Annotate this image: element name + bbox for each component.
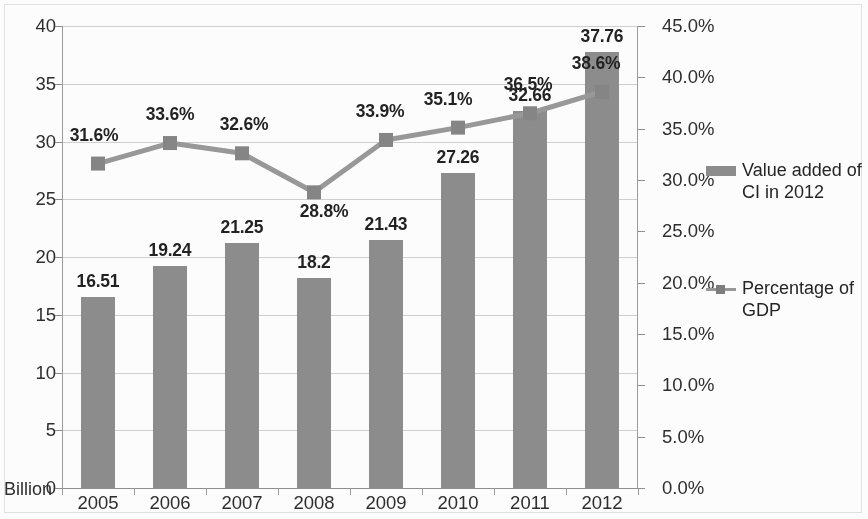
y-axis-left-tick-label: 25 bbox=[12, 188, 56, 210]
gridline bbox=[63, 142, 637, 143]
bar bbox=[369, 240, 403, 488]
legend-item-value-added: Value added of CI in 2012 bbox=[706, 160, 866, 204]
gridline bbox=[63, 430, 637, 431]
y-axis-right-tick-label: 45.0% bbox=[662, 15, 714, 37]
x-axis-tick-label: 2006 bbox=[149, 492, 190, 514]
x-axis-tick bbox=[494, 488, 495, 495]
y-axis-right-tick bbox=[638, 180, 645, 181]
bar bbox=[225, 243, 259, 488]
legend-label-line1: Percentage of bbox=[742, 278, 854, 298]
legend-item-percentage-gdp: Percentage of GDP bbox=[706, 278, 866, 322]
bar bbox=[441, 173, 475, 488]
y-axis-left-tick bbox=[55, 373, 62, 374]
line-value-label: 36.5% bbox=[504, 74, 553, 95]
line-value-label: 32.6% bbox=[220, 114, 269, 135]
gridline bbox=[63, 199, 637, 200]
y-axis-left-tick bbox=[55, 257, 62, 258]
legend-label-line1: Value added of bbox=[742, 160, 862, 180]
gridline bbox=[63, 315, 637, 316]
x-axis-tick-label: 2011 bbox=[510, 492, 550, 514]
x-axis-tick bbox=[422, 488, 423, 495]
y-axis-left-tick bbox=[55, 84, 62, 85]
y-axis-right-tick-label: 35.0% bbox=[662, 118, 714, 140]
y-axis-right-tick bbox=[638, 77, 645, 78]
y-axis-left-tick-label: 20 bbox=[12, 246, 56, 268]
legend-line-marker-icon bbox=[716, 285, 725, 294]
line-value-label: 31.6% bbox=[70, 125, 119, 146]
bar bbox=[81, 297, 115, 488]
x-axis-tick-label: 2012 bbox=[581, 492, 622, 514]
gridline bbox=[63, 26, 637, 27]
bar-value-label: 37.76 bbox=[581, 26, 624, 47]
y-axis-left-tick-label: 40 bbox=[12, 15, 56, 37]
bar-value-label: 21.43 bbox=[365, 214, 408, 235]
line-value-label: 33.6% bbox=[146, 104, 195, 125]
y-axis-right-tick bbox=[638, 385, 645, 386]
y-axis-right-tick bbox=[638, 26, 645, 27]
y-axis-right-tick-label: 40.0% bbox=[662, 66, 714, 88]
bar-value-label: 18.2 bbox=[297, 252, 330, 273]
x-axis-tick bbox=[566, 488, 567, 495]
legend-line-swatch-icon bbox=[706, 283, 736, 295]
x-axis-tick bbox=[134, 488, 135, 495]
x-axis-tick-label: 2010 bbox=[437, 492, 478, 514]
bar bbox=[585, 52, 619, 488]
x-axis-tick-label: 2005 bbox=[77, 492, 118, 514]
x-axis-tick-label: 2009 bbox=[365, 492, 406, 514]
x-axis-tick bbox=[278, 488, 279, 495]
line-value-label: 35.1% bbox=[424, 89, 473, 110]
y-axis-left-tick-label: 35 bbox=[12, 73, 56, 95]
y-axis-right-tick-label: 5.0% bbox=[662, 426, 704, 448]
y-axis-right-tick bbox=[638, 231, 645, 232]
y-axis-left-tick bbox=[55, 315, 62, 316]
bar bbox=[513, 111, 547, 488]
x-axis-tick-label: 2007 bbox=[221, 492, 262, 514]
y-axis-right-tick-label: 10.0% bbox=[662, 374, 714, 396]
gridline bbox=[63, 373, 637, 374]
legend-label-line2: GDP bbox=[742, 300, 781, 320]
y-axis-left-tick-label: 15 bbox=[12, 304, 56, 326]
bar-value-label: 21.25 bbox=[221, 217, 264, 238]
bar-value-label: 16.51 bbox=[77, 271, 120, 292]
y-axis-right-tick-label: 15.0% bbox=[662, 323, 714, 345]
legend-label-percentage-gdp: Percentage of GDP bbox=[742, 278, 854, 322]
x-axis-tick bbox=[206, 488, 207, 495]
y-axis-left-tick-label: 30 bbox=[12, 131, 56, 153]
y-axis-right-tick bbox=[638, 488, 645, 489]
legend-label-value-added: Value added of CI in 2012 bbox=[742, 160, 862, 204]
y-axis-left: 0510152025303540 bbox=[0, 0, 56, 519]
legend-label-line2: CI in 2012 bbox=[742, 182, 824, 202]
x-axis-tick bbox=[638, 488, 639, 495]
y-axis-left-tick bbox=[55, 26, 62, 27]
bar-value-label: 19.24 bbox=[149, 240, 192, 261]
y-axis-unit-label: Billion bbox=[4, 479, 52, 500]
y-axis-left-tick bbox=[55, 488, 62, 489]
y-axis-right: 0.0%5.0%10.0%15.0%20.0%25.0%30.0%35.0%40… bbox=[638, 0, 758, 519]
line-value-label: 28.8% bbox=[300, 201, 349, 222]
y-axis-right-tick bbox=[638, 129, 645, 130]
y-axis-right-tick-label: 0.0% bbox=[662, 477, 704, 499]
y-axis-left-tick-label: 10 bbox=[12, 362, 56, 384]
bar bbox=[297, 278, 331, 488]
bar bbox=[153, 266, 187, 488]
bar-value-label: 27.26 bbox=[437, 147, 480, 168]
legend-bar-swatch-icon bbox=[706, 166, 736, 176]
y-axis-left-tick bbox=[55, 142, 62, 143]
x-axis-tick-label: 2008 bbox=[293, 492, 334, 514]
y-axis-right-tick-label: 25.0% bbox=[662, 220, 714, 242]
y-axis-left-tick bbox=[55, 199, 62, 200]
line-value-label: 33.9% bbox=[356, 101, 405, 122]
line-value-label: 38.6% bbox=[572, 53, 621, 74]
x-axis-tick bbox=[62, 488, 63, 495]
y-axis-right-tick bbox=[638, 437, 645, 438]
chart-container: 0510152025303540 Billion 0.0%5.0%10.0%15… bbox=[0, 0, 868, 519]
x-axis-tick bbox=[350, 488, 351, 495]
y-axis-left-tick-label: 5 bbox=[12, 419, 56, 441]
y-axis-left-tick bbox=[55, 430, 62, 431]
y-axis-right-tick bbox=[638, 283, 645, 284]
y-axis-right-tick bbox=[638, 334, 645, 335]
